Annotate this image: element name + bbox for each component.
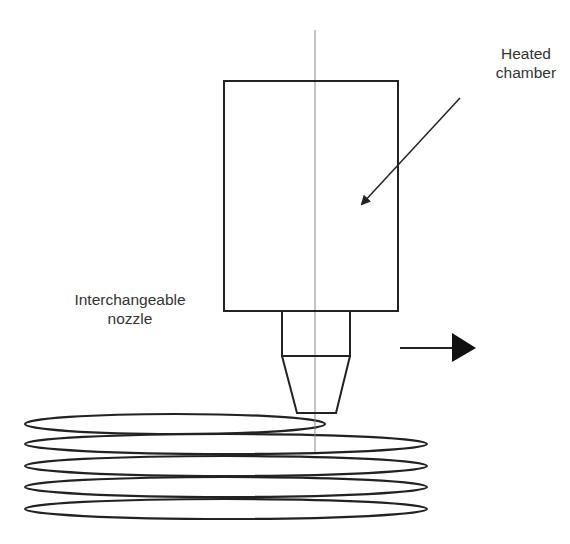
nozzle-label-line2: nozzle xyxy=(50,309,210,328)
interchangeable-nozzle xyxy=(282,311,350,413)
nozzle-body xyxy=(282,311,350,356)
filament-layer-2 xyxy=(25,434,427,454)
heated-chamber-label: Heated chamber xyxy=(486,44,566,82)
movement-arrow xyxy=(400,333,476,362)
filament-layer-3 xyxy=(25,456,427,476)
heated-chamber-label-line1: Heated xyxy=(486,44,566,63)
arrow-right-icon xyxy=(452,333,476,362)
heated-chamber-label-line2: chamber xyxy=(486,63,566,82)
extrusion-diagram xyxy=(0,0,570,544)
filament-layer-1 xyxy=(25,414,325,434)
filament-layer-5 xyxy=(25,499,427,519)
filament-layer-4 xyxy=(25,477,427,497)
heated-chamber xyxy=(224,81,398,311)
nozzle-tip xyxy=(282,356,350,413)
nozzle-label-line1: Interchangeable xyxy=(50,290,210,309)
deposited-filament-layers xyxy=(25,414,427,519)
heated-chamber-pointer-arrow xyxy=(362,98,460,204)
interchangeable-nozzle-label: Interchangeable nozzle xyxy=(50,290,210,328)
